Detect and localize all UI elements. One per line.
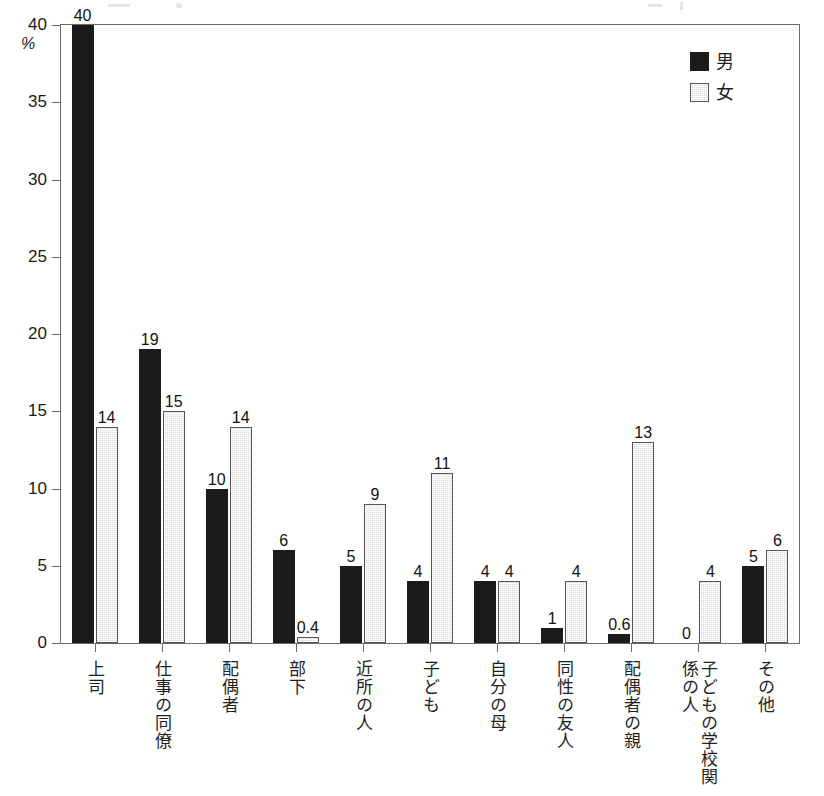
bar-male: 4 — [407, 581, 429, 643]
bar-group: 56 — [742, 25, 788, 643]
x-axis-category-label: その他 — [756, 660, 775, 714]
y-axis-tick-mark — [52, 25, 61, 26]
bar-value-label: 0.4 — [297, 620, 319, 636]
bar-male: 0.6 — [608, 634, 630, 643]
x-axis-category-label: 同性の友人 — [555, 660, 574, 750]
bar-value-label: 5 — [346, 549, 355, 565]
y-axis-tick-label: 35 — [28, 93, 47, 110]
bar-value-label: 14 — [232, 410, 250, 426]
bar-group: 44 — [474, 25, 520, 643]
y-axis-tick-mark — [52, 257, 61, 258]
x-axis-tick-mark — [430, 644, 431, 652]
bar-value-label: 4 — [505, 564, 514, 580]
x-axis-tick-mark — [363, 644, 364, 652]
x-axis-category-label: 自分の母 — [488, 660, 507, 732]
x-axis-tick-mark — [229, 644, 230, 652]
legend-item-label: 女 — [716, 84, 734, 102]
bar-group: 59 — [340, 25, 386, 643]
bar-value-label: 0 — [682, 626, 691, 642]
bar-value-label: 6 — [279, 533, 288, 549]
bar-female: 14 — [230, 427, 252, 643]
y-axis-tick-label: 25 — [28, 248, 47, 265]
bar-female: 4 — [699, 581, 721, 643]
scan-artifact — [680, 2, 683, 10]
bar-value-label: 10 — [208, 472, 226, 488]
bar-male: 1 — [541, 628, 563, 643]
legend-item-label: 男 — [716, 53, 734, 71]
x-axis-category-label: 子ども — [421, 660, 440, 714]
x-axis-category-label: 子どもの学校関係の人 — [679, 660, 717, 788]
bar-value-label: 4 — [706, 564, 715, 580]
x-axis-tick-mark — [564, 644, 565, 652]
x-axis-category-label: 配偶者の親 — [622, 660, 641, 750]
bar-value-label: 40 — [74, 8, 92, 24]
bar-female: 9 — [364, 504, 386, 643]
y-axis-tick-mark — [52, 180, 61, 181]
y-axis-tick-mark — [52, 334, 61, 335]
x-axis-tick-mark — [296, 644, 297, 652]
bar-value-label: 5 — [749, 549, 758, 565]
x-axis-category-label: 配偶者 — [219, 660, 238, 714]
bar-female: 15 — [163, 411, 185, 643]
bar-value-label: 0.6 — [608, 617, 630, 633]
y-axis-tick-mark — [52, 489, 61, 490]
bar-group: 1014 — [206, 25, 252, 643]
y-axis-tick-mark — [52, 411, 61, 412]
bar-value-label: 6 — [773, 533, 782, 549]
bar-male: 40 — [72, 25, 94, 643]
gray-square-swatch — [690, 83, 709, 102]
legend-item: 男 — [690, 52, 734, 71]
y-axis-tick-label: 20 — [28, 325, 47, 342]
x-axis-tick-mark — [497, 644, 498, 652]
bar-male: 5 — [742, 566, 764, 643]
bar-female: 11 — [431, 473, 453, 643]
x-axis-category-label: 近所の人 — [353, 660, 372, 732]
bar-female: 6 — [766, 550, 788, 643]
bar-group: 4014 — [72, 25, 118, 643]
bar-female: 14 — [96, 427, 118, 643]
bar-female: 0.4 — [297, 637, 319, 643]
y-axis-tick-label: 15 — [28, 402, 47, 419]
y-axis-tick-mark — [52, 566, 61, 567]
bar-value-label: 9 — [370, 487, 379, 503]
black-square-swatch — [690, 52, 709, 71]
x-axis-tick-mark — [631, 644, 632, 652]
y-axis-tick-label: 5 — [38, 557, 47, 574]
bar-group: 14 — [541, 25, 587, 643]
bar-male: 4 — [474, 581, 496, 643]
scan-artifact — [176, 3, 182, 8]
bar-value-label: 1 — [548, 611, 557, 627]
bar-female: 13 — [632, 442, 654, 643]
bar-group: 60.4 — [273, 25, 319, 643]
x-axis-category-label: 部下 — [286, 660, 305, 696]
bars-layer: 40141915101460.45941144140.6130456 — [61, 25, 799, 643]
bar-group: 0.613 — [608, 25, 654, 643]
bar-group: 1915 — [139, 25, 185, 643]
x-axis-tick-mark — [698, 644, 699, 652]
y-axis-tick-label: 30 — [28, 171, 47, 188]
bar-value-label: 13 — [634, 425, 652, 441]
bar-male: 19 — [139, 349, 161, 643]
scan-artifact — [108, 4, 130, 7]
bar-male: 6 — [273, 550, 295, 643]
x-axis-tick-mark — [95, 644, 96, 652]
bar-value-label: 4 — [572, 564, 581, 580]
y-axis-unit-label: % — [21, 36, 35, 52]
y-axis-tick-label: 10 — [28, 480, 47, 497]
legend: 男女 — [690, 52, 734, 114]
bar-female: 4 — [565, 581, 587, 643]
bar-value-label: 4 — [481, 564, 490, 580]
bar-male: 5 — [340, 566, 362, 643]
bar-value-label: 15 — [165, 394, 183, 410]
scan-artifact — [648, 4, 662, 7]
x-axis-category-label: 上司 — [85, 660, 104, 696]
x-axis-category-label: 仕事の同僚 — [152, 660, 171, 750]
bar-female: 4 — [498, 581, 520, 643]
bar-chart-figure: % 0510152025303540 40141915101460.459411… — [0, 0, 824, 796]
bar-group: 04 — [675, 25, 721, 643]
bar-value-label: 11 — [434, 456, 451, 472]
legend-item: 女 — [690, 83, 734, 102]
bar-value-label: 14 — [98, 410, 116, 426]
y-axis-tick-mark — [52, 643, 61, 644]
x-axis-tick-mark — [162, 644, 163, 652]
